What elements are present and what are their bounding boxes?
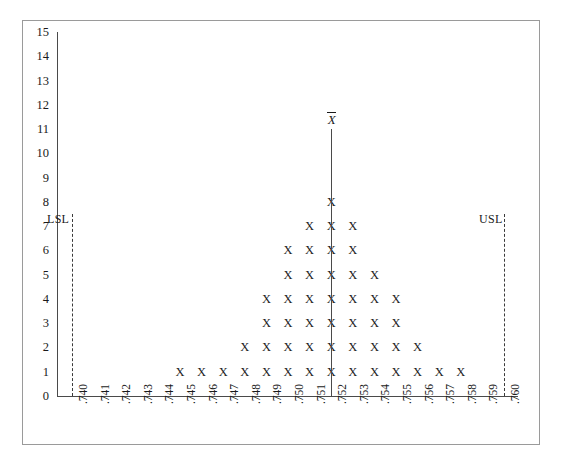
data-mark: X: [367, 293, 381, 305]
data-mark: X: [281, 269, 295, 281]
data-mark: X: [281, 341, 295, 353]
mean-label: X: [327, 112, 336, 126]
y-axis-tick-label-15: 15: [17, 26, 49, 38]
data-mark: X: [367, 269, 381, 281]
tally-histogram-chart: 0123456789101112131415.740.741.742.743.7…: [0, 0, 564, 467]
y-axis-tick-label-3: 3: [17, 317, 49, 329]
y-axis-tick-label-13: 13: [17, 75, 49, 87]
data-mark: X: [303, 317, 317, 329]
data-mark: X: [259, 317, 273, 329]
data-mark: X: [303, 269, 317, 281]
y-axis-tick-label-6: 6: [17, 244, 49, 256]
mean-line: [331, 129, 332, 396]
data-mark: X: [346, 317, 360, 329]
data-mark: X: [195, 366, 209, 378]
data-mark: X: [259, 341, 273, 353]
data-mark: X: [411, 366, 425, 378]
x-axis-tick-label-760: .760: [509, 384, 521, 404]
data-mark: X: [259, 366, 273, 378]
x-axis-tick-label-747: .747: [228, 384, 240, 404]
data-mark: X: [303, 220, 317, 232]
data-mark: X: [367, 366, 381, 378]
lsl-label: LSL: [47, 212, 69, 227]
data-mark: X: [346, 366, 360, 378]
x-axis-tick-label-756: .756: [423, 384, 435, 404]
x-axis-tick-label-746: .746: [207, 384, 219, 404]
x-axis-tick-label-758: .758: [466, 384, 478, 404]
data-mark: X: [454, 366, 468, 378]
data-mark: X: [346, 269, 360, 281]
data-mark: X: [303, 341, 317, 353]
data-mark: X: [432, 366, 446, 378]
x-axis-tick-label-744: .744: [163, 384, 175, 404]
y-axis-tick-label-9: 9: [17, 172, 49, 184]
data-mark: X: [346, 220, 360, 232]
x-axis-tick-label-753: .753: [358, 384, 370, 404]
y-axis-tick-label-12: 12: [17, 99, 49, 111]
y-axis-tick-label-1: 1: [17, 366, 49, 378]
data-mark: X: [389, 366, 403, 378]
data-mark: X: [346, 341, 360, 353]
y-axis-tick-label-0: 0: [17, 390, 49, 402]
data-mark: X: [303, 293, 317, 305]
data-mark: X: [367, 317, 381, 329]
data-mark: X: [389, 317, 403, 329]
data-mark: X: [303, 244, 317, 256]
x-axis-tick-label-750: .750: [293, 384, 305, 404]
data-mark: X: [346, 244, 360, 256]
x-axis-tick-label-743: .743: [142, 384, 154, 404]
y-axis-tick-label-7: 7: [17, 220, 49, 232]
y-axis-tick-label-14: 14: [17, 50, 49, 62]
x-axis-tick-label-751: .751: [315, 384, 327, 404]
data-mark: X: [389, 341, 403, 353]
data-mark: X: [367, 341, 381, 353]
lsl-line: [72, 214, 73, 396]
x-axis-tick-label-757: .757: [444, 384, 456, 404]
x-axis-tick-label-748: .748: [250, 384, 262, 404]
x-axis-tick-label-752: .752: [336, 384, 348, 404]
data-mark: X: [238, 366, 252, 378]
data-mark: X: [389, 293, 403, 305]
data-mark: X: [281, 366, 295, 378]
y-axis-tick-label-10: 10: [17, 147, 49, 159]
data-mark: X: [281, 293, 295, 305]
y-axis-tick-label-4: 4: [17, 293, 49, 305]
data-mark: X: [173, 366, 187, 378]
y-axis-tick-label-8: 8: [17, 196, 49, 208]
data-mark: X: [411, 341, 425, 353]
usl-label: USL: [479, 212, 503, 227]
x-axis-tick-label-759: .759: [487, 384, 499, 404]
data-mark: X: [216, 366, 230, 378]
data-mark: X: [303, 366, 317, 378]
data-mark: X: [281, 317, 295, 329]
y-axis-tick-label-5: 5: [17, 269, 49, 281]
x-axis-tick-label-742: .742: [120, 384, 132, 404]
data-mark: X: [238, 341, 252, 353]
data-mark: X: [281, 244, 295, 256]
x-axis-tick-label-745: .745: [185, 384, 197, 404]
data-mark: X: [259, 293, 273, 305]
x-axis-tick-label-749: .749: [271, 384, 283, 404]
x-axis-tick-label-740: .740: [77, 384, 89, 404]
usl-line: [504, 214, 505, 396]
x-axis-tick-label-755: .755: [401, 384, 413, 404]
mean-glyph: X: [327, 114, 336, 126]
x-axis-tick-label-741: .741: [99, 384, 111, 404]
y-axis-tick-label-11: 11: [17, 123, 49, 135]
data-mark: X: [346, 293, 360, 305]
y-axis-tick-label-2: 2: [17, 341, 49, 353]
x-axis-tick-label-754: .754: [379, 384, 391, 404]
